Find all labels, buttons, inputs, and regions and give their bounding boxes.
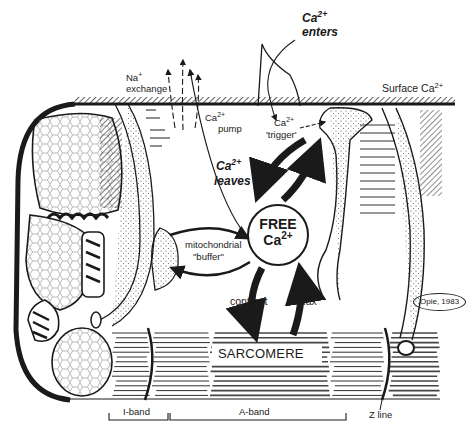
right-t-tubule-sr	[318, 108, 442, 355]
ca-pump-label: Ca2+	[205, 113, 225, 123]
i-band-label: I-band	[122, 407, 151, 417]
relax-label: relax	[294, 296, 317, 307]
myofibril-bundle	[60, 328, 440, 400]
t-tubule-cross-section	[398, 341, 414, 355]
ca-pump-label-line2: pump	[218, 124, 242, 134]
mito-uptake-arrow	[170, 228, 248, 238]
ca-enters-label-line2: enters	[302, 26, 338, 38]
ca-leaves-label-line2: leaves	[214, 175, 251, 187]
mitochondrion-bottom	[52, 328, 112, 396]
calcium-cycle-diagram: Ca2+ enters Surface Ca2+ Na+ exchange Ca…	[0, 0, 473, 444]
trigger-arrow	[300, 122, 325, 128]
sr-reticulum-lines	[360, 125, 395, 213]
na-exchange-label: Na+	[126, 73, 142, 83]
sarcolemma	[75, 97, 455, 104]
credit-badge: Opie, 1983	[413, 293, 466, 311]
mito-buffer-label: mitochondrial	[185, 240, 242, 250]
ca-enters-label: Ca2+	[302, 12, 327, 24]
z-line-label: Z line	[369, 410, 392, 420]
diagram-canvas	[0, 0, 473, 444]
ca-trigger-label-line2: 'trigger'	[266, 130, 297, 140]
free-ca-label: FREE	[256, 217, 300, 231]
ca-trigger-label: Ca2+	[274, 118, 294, 128]
na-exchange-label-line2: exchange	[126, 84, 167, 94]
ca-leaves-label: Ca2+	[216, 160, 241, 172]
efflux-arrows	[168, 60, 255, 245]
action-potential-trace	[258, 40, 300, 120]
contract-label: contract	[230, 296, 267, 307]
sr-cisterna-left	[152, 228, 179, 290]
a-band-label: A-band	[238, 407, 271, 417]
mito-release-arrow	[172, 262, 250, 275]
ca-entry-arrow	[268, 40, 295, 120]
ca-leaves-arrow	[190, 70, 255, 245]
surface-ca-label: Surface Ca2+	[382, 83, 443, 94]
free-ca-label-line2: Ca2+	[256, 233, 300, 247]
mito-buffer-label-line2: "buffer"	[193, 252, 224, 262]
sarcomere-label: SARCOMERE	[218, 347, 304, 360]
